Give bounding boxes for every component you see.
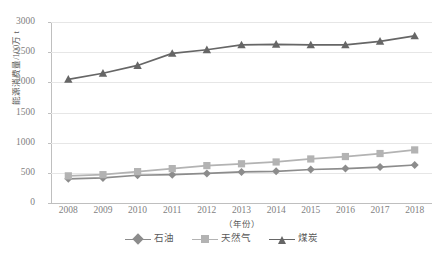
data-point <box>376 150 383 157</box>
data-point <box>203 169 211 177</box>
data-point <box>307 166 315 174</box>
data-point <box>134 168 141 175</box>
legend-item[interactable]: 石油 <box>125 234 174 244</box>
data-point <box>238 168 246 176</box>
legend-swatch-square-icon <box>192 234 218 244</box>
data-point <box>411 161 419 169</box>
energy-consumption-line-chart: 能源消费量/100万 t 050010001500200025003000 20… <box>0 0 442 258</box>
data-point <box>341 165 349 173</box>
data-point <box>238 160 245 167</box>
data-point <box>272 167 280 175</box>
data-point <box>273 158 280 165</box>
data-point <box>307 155 314 162</box>
data-point <box>203 162 210 169</box>
data-point <box>411 146 418 153</box>
x-axis-title: （年份） <box>51 217 432 229</box>
chart-legend: 石油天然气煤炭 <box>0 234 442 244</box>
data-point <box>65 172 72 179</box>
data-point <box>342 153 349 160</box>
legend-label: 石油 <box>154 234 174 244</box>
series-triangle <box>64 32 419 83</box>
legend-item[interactable]: 煤炭 <box>269 234 318 244</box>
legend-label: 煤炭 <box>298 234 318 244</box>
legend-item[interactable]: 天然气 <box>192 234 251 244</box>
data-point <box>169 165 176 172</box>
legend-swatch-diamond-icon <box>125 234 151 244</box>
legend-label: 天然气 <box>221 234 251 244</box>
data-point <box>99 171 106 178</box>
data-point <box>376 163 384 171</box>
legend-swatch-triangle-icon <box>269 234 295 244</box>
